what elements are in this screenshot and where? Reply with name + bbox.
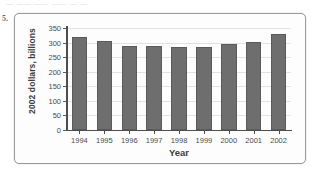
bar-chart: 2002 dollars, billions 05010015020025030… bbox=[15, 14, 307, 165]
plot-area: 050100150200250300350 199419951996199719… bbox=[67, 28, 291, 130]
x-tick-label: 1996 bbox=[121, 136, 138, 145]
bar[interactable] bbox=[122, 46, 137, 130]
bar-slot: 1994 bbox=[67, 28, 92, 130]
bar-slot: 1996 bbox=[117, 28, 142, 130]
x-tick-mark bbox=[154, 130, 155, 134]
x-tick-mark bbox=[129, 130, 130, 134]
y-tick-label: 200 bbox=[48, 67, 61, 76]
y-tick-label: 300 bbox=[48, 38, 61, 47]
figure-frame: 2002 dollars, billions 05010015020025030… bbox=[14, 13, 306, 164]
y-tick-label: 150 bbox=[48, 82, 61, 91]
x-tick-label: 1997 bbox=[146, 136, 163, 145]
y-tick-label: 350 bbox=[48, 24, 61, 33]
x-tick-label: 1999 bbox=[196, 136, 213, 145]
item-number-label: 5. bbox=[2, 14, 8, 23]
bar[interactable] bbox=[246, 42, 261, 130]
x-tick-mark bbox=[279, 130, 280, 134]
x-tick-label: 2002 bbox=[270, 136, 287, 145]
bar-series: 199419951996199719981999200020012002 bbox=[67, 28, 291, 130]
x-tick-mark bbox=[79, 130, 80, 134]
bar[interactable] bbox=[196, 47, 211, 130]
bar-slot: 2001 bbox=[241, 28, 266, 130]
x-tick-label: 1995 bbox=[96, 136, 113, 145]
bar-slot: 1997 bbox=[142, 28, 167, 130]
bar-slot: 1999 bbox=[191, 28, 216, 130]
y-axis-title: 2002 dollars, billions bbox=[27, 21, 37, 121]
x-tick-label: 2000 bbox=[220, 136, 237, 145]
bar-slot: 2000 bbox=[216, 28, 241, 130]
y-tick-label: 0 bbox=[57, 126, 61, 135]
x-tick-label: 1994 bbox=[71, 136, 88, 145]
bar-slot: 1998 bbox=[167, 28, 192, 130]
bar[interactable] bbox=[171, 47, 186, 130]
y-tick-label: 250 bbox=[48, 53, 61, 62]
x-tick-mark bbox=[204, 130, 205, 134]
x-tick-label: 1998 bbox=[171, 136, 188, 145]
x-tick-mark bbox=[104, 130, 105, 134]
y-tick-label: 100 bbox=[48, 96, 61, 105]
y-tick-label: 50 bbox=[53, 111, 61, 120]
bar[interactable] bbox=[221, 44, 236, 130]
bar-slot: 2002 bbox=[266, 28, 291, 130]
x-tick-mark bbox=[229, 130, 230, 134]
scan-artifact-text: — —— —— —— — — bbox=[6, 0, 156, 8]
x-tick-mark bbox=[254, 130, 255, 134]
x-axis-title: Year bbox=[67, 147, 291, 158]
bar[interactable] bbox=[72, 37, 87, 130]
x-tick-mark bbox=[179, 130, 180, 134]
x-tick-label: 2001 bbox=[245, 136, 262, 145]
bar[interactable] bbox=[146, 46, 161, 130]
bar[interactable] bbox=[271, 34, 286, 130]
bar-slot: 1995 bbox=[92, 28, 117, 130]
bar[interactable] bbox=[97, 41, 112, 130]
